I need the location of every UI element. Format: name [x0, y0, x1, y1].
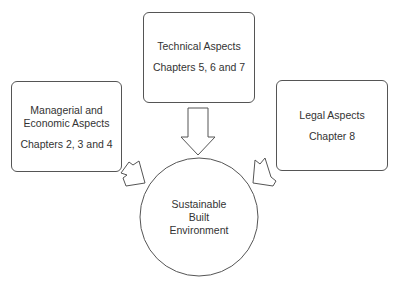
center-label-line: Environment	[150, 224, 248, 237]
managerial-economic-aspects-box: Managerial and Economic Aspects Chapters…	[11, 81, 122, 172]
center-label-line: Sustainable	[150, 198, 248, 211]
technical-aspects-box: Technical Aspects Chapters 5, 6 and 7	[143, 12, 255, 103]
node-title: Technical Aspects	[144, 40, 254, 53]
node-subtitle: Chapters 2, 3 and 4	[12, 138, 121, 151]
arrow-down-icon	[181, 108, 215, 155]
center-label-line: Built	[150, 211, 248, 224]
node-subtitle: Chapter 8	[277, 130, 387, 143]
legal-aspects-box: Legal Aspects Chapter 8	[276, 80, 388, 171]
node-title-line: Managerial and	[12, 104, 121, 117]
sustainable-built-environment-label: Sustainable Built Environment	[150, 198, 248, 237]
arrow-left-down-icon	[253, 158, 276, 186]
arrow-right-down-icon	[121, 161, 145, 186]
node-title: Legal Aspects	[277, 109, 387, 122]
node-subtitle: Chapters 5, 6 and 7	[144, 61, 254, 74]
node-title-line: Economic Aspects	[12, 117, 121, 130]
